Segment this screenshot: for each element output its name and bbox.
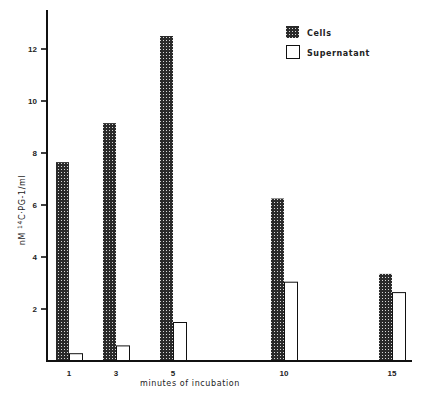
bar-group-15-min <box>379 274 406 362</box>
bar-group-10-min <box>271 199 298 362</box>
bars-group <box>56 36 406 362</box>
x-tick-label: 1 <box>67 369 72 378</box>
bar-supernatant <box>393 293 406 362</box>
bar-supernatant <box>174 323 187 362</box>
x-tick-label: 3 <box>114 369 119 378</box>
x-tick-label: 5 <box>171 369 176 378</box>
y-tick-label: 4 <box>33 253 38 262</box>
bar-group-1-min <box>56 162 83 361</box>
y-tick-label: 6 <box>33 201 38 210</box>
bar-cells <box>271 199 284 362</box>
legend-item-supernatant: Supernatant <box>287 46 371 59</box>
legend-item-cells: Cells <box>286 26 332 38</box>
y-axis-title-superscript: 14 <box>16 220 23 229</box>
legend-label-cells: Cells <box>307 29 332 38</box>
bar-cells <box>160 36 173 361</box>
y-axis-title: nM 14C·PG-1/ml <box>16 175 27 245</box>
x-axis-title: minutes of incubation <box>140 379 240 388</box>
bar-cells <box>56 162 69 361</box>
legend: Cells Supernatant <box>286 26 370 59</box>
x-tick-label: 15 <box>388 369 397 378</box>
bar-supernatant <box>285 282 298 361</box>
y-tick-label: 10 <box>28 97 37 106</box>
x-tick-label: 10 <box>280 369 289 378</box>
bar-group-5-min <box>160 36 187 362</box>
bar-cells <box>103 123 116 361</box>
bar-group-3-min <box>103 123 130 361</box>
legend-label-supernatant: Supernatant <box>307 49 370 58</box>
bar-cells <box>379 274 392 361</box>
y-tick-label: 2 <box>33 305 38 314</box>
legend-swatch-cells <box>286 26 299 38</box>
y-tick-label: 8 <box>33 149 38 158</box>
y-axis-title-prefix: nM <box>18 229 27 245</box>
x-ticks-group: 1351015 <box>67 369 397 378</box>
y-axis-title-suffix: C·PG-1/ml <box>18 175 27 220</box>
bar-supernatant <box>117 346 130 362</box>
y-tick-label: 12 <box>28 45 37 54</box>
legend-swatch-supernatant <box>287 46 300 59</box>
y-ticks-group: 24681012 <box>28 45 47 314</box>
bar-chart: 24681012 1351015 minutes of incubation n… <box>0 0 425 400</box>
